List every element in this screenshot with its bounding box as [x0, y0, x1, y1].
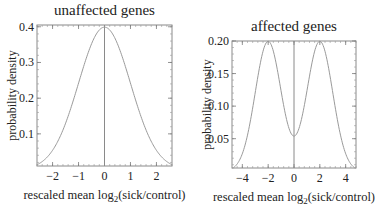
x-axis-label-tail: (sick/control)	[308, 190, 375, 204]
x-axis-label: rescaled mean log2(sick/control)	[213, 190, 375, 206]
x-tick-label: 2	[317, 171, 323, 185]
x-tick-label: 0	[291, 171, 297, 185]
x-tick-label: 4	[343, 171, 349, 185]
x-tick-label: −4	[236, 171, 249, 185]
y-axis-label: probability density	[200, 59, 214, 149]
plot-group: −4−20240.050.100.150.20affected genespro…	[200, 18, 375, 206]
affected-genes-chart: −4−20240.050.100.150.20affected genespro…	[0, 0, 376, 208]
x-axis-label-main: rescaled mean log	[213, 190, 304, 204]
y-tick-label: 0.20	[208, 34, 229, 48]
x-tick-label: −2	[262, 171, 275, 185]
chart-title: affected genes	[251, 18, 337, 34]
